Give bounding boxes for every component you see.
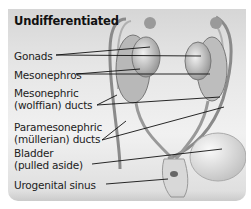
label-mesonephric-ducts: Mesonephric (wolffian) ducts <box>14 87 92 111</box>
label-urogenital-sinus-text: Urogenital sinus <box>14 179 96 191</box>
label-mesonephric-line1: Mesonephric <box>14 87 92 99</box>
diagram-title: Undifferentiated <box>14 14 119 28</box>
label-mesonephros: Mesonephros <box>14 69 82 81</box>
label-paramesonephric-line2: (müllerian) ducts <box>14 133 102 145</box>
label-urogenital-sinus: Urogenital sinus <box>14 179 96 191</box>
label-bladder-line1: Bladder <box>14 147 83 159</box>
label-paramesonephric-line1: Paramesonephric <box>14 121 102 133</box>
label-gonads: Gonads <box>14 50 53 62</box>
label-mesonephric-line2: (wolffian) ducts <box>14 99 92 111</box>
diagram-panel: Undifferentiated Gonads Mesonephros Meso… <box>8 9 246 201</box>
label-bladder-line2: (pulled aside) <box>14 159 83 171</box>
label-gonads-text: Gonads <box>14 50 53 62</box>
label-bladder: Bladder (pulled aside) <box>14 147 83 171</box>
label-paramesonephric-ducts: Paramesonephric (müllerian) ducts <box>14 121 102 145</box>
label-mesonephros-text: Mesonephros <box>14 69 82 81</box>
